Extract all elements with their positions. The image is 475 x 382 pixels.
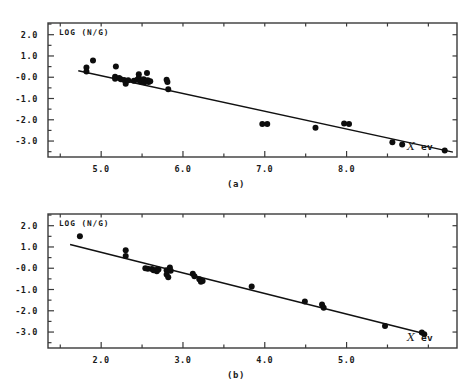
data-point <box>125 77 131 83</box>
y-axis-tick-label: -0.0 <box>15 263 38 273</box>
y-axis-tick-label: 2.0 <box>21 30 38 40</box>
x-axis-tick-label: 4.0 <box>256 355 273 365</box>
data-point <box>264 121 270 127</box>
y-axis-tick-label: -1.0 <box>15 285 38 295</box>
x-axis-tick-label: 3.0 <box>174 355 191 365</box>
panel-a-plot: 2.01.0-0.0-1.0-2.0-3.05.06.07.08.0LOG (N… <box>0 0 475 191</box>
panel-caption: (b) <box>227 370 245 380</box>
panel-a: 2.01.0-0.0-1.0-2.0-3.05.06.07.08.0LOG (N… <box>0 0 475 191</box>
data-point <box>168 268 174 274</box>
x-axis-title-unit: ev <box>421 141 433 152</box>
data-point <box>144 70 150 76</box>
y-axis-quantity-label: LOG (N/G) <box>59 219 109 228</box>
data-point <box>312 125 318 131</box>
data-point <box>147 78 153 84</box>
data-point <box>165 274 171 280</box>
x-axis-title-symbol: X <box>406 140 416 153</box>
x-axis-tick-label: 5.0 <box>338 355 355 365</box>
panel-caption: (a) <box>227 179 245 189</box>
data-point <box>113 64 119 70</box>
y-axis-tick-label: -1.0 <box>15 94 38 104</box>
y-axis-tick-label: -2.0 <box>15 115 38 125</box>
x-axis-tick-label: 6.0 <box>174 164 191 174</box>
data-point <box>90 57 96 63</box>
data-point <box>249 284 255 290</box>
data-point <box>165 86 171 92</box>
scientific-figure: 2.01.0-0.0-1.0-2.0-3.05.06.07.08.0LOG (N… <box>0 0 475 382</box>
data-point <box>123 247 129 253</box>
plot-frame <box>48 23 457 157</box>
data-point <box>389 139 395 145</box>
data-point <box>382 323 388 329</box>
y-axis-tick-label: 1.0 <box>21 242 38 252</box>
data-point <box>200 278 206 284</box>
data-point <box>123 253 129 259</box>
x-axis-tick-label: 2.0 <box>93 355 110 365</box>
y-axis-tick-label: -3.0 <box>15 136 38 146</box>
data-point <box>155 267 161 273</box>
x-axis-tick-label: 7.0 <box>256 164 273 174</box>
data-point <box>399 141 405 147</box>
y-axis-quantity-label: LOG (N/G) <box>59 28 109 37</box>
panel-b-plot: 2.01.0-0.0-1.0-2.0-3.02.03.04.05.0LOG (N… <box>0 191 475 382</box>
data-point <box>164 79 170 85</box>
data-point <box>77 233 83 239</box>
data-point <box>302 298 308 304</box>
data-point <box>442 147 448 153</box>
y-axis-tick-label: 2.0 <box>21 221 38 231</box>
x-axis-title-unit: ev <box>421 332 433 343</box>
data-point <box>346 121 352 127</box>
data-point <box>83 68 89 74</box>
panel-b: 2.01.0-0.0-1.0-2.0-3.02.03.04.05.0LOG (N… <box>0 191 475 382</box>
y-axis-tick-label: 1.0 <box>21 51 38 61</box>
x-axis-tick-label: 8.0 <box>338 164 355 174</box>
data-point <box>321 305 327 311</box>
x-axis-title-symbol: X <box>406 331 416 344</box>
y-axis-tick-label: -3.0 <box>15 327 38 337</box>
x-axis-tick-label: 5.0 <box>93 164 110 174</box>
y-axis-tick-label: -2.0 <box>15 306 38 316</box>
y-axis-tick-label: -0.0 <box>15 72 38 82</box>
plot-frame <box>48 214 457 348</box>
